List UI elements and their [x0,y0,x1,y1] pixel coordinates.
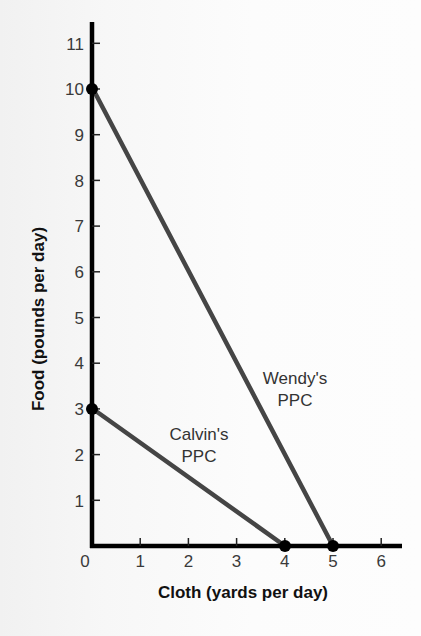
calvin-cloth-intercept-marker [279,540,291,552]
x-tick-label: 1 [135,552,144,571]
y-tick-labels: 1 2 3 4 5 6 7 8 9 10 11 [65,35,84,511]
y-tick-label: 2 [75,446,84,465]
calvin-ppc-label-line2: PPC [182,447,217,466]
y-tick-label: 1 [75,492,84,511]
calvin-food-intercept-marker [86,403,98,415]
y-tick-label: 7 [75,217,84,236]
x-tick-label: 3 [232,552,241,571]
x-tick-label: 2 [184,552,193,571]
x-axis-title: Cloth (yards per day) [158,583,328,602]
x-tick-label: 6 [376,552,385,571]
y-tick-label: 6 [75,263,84,282]
wendy-ppc-label: Wendy's PPC [263,369,327,410]
x-tick-labels: 0 1 2 3 4 5 6 [80,552,386,571]
y-tick-label: 10 [65,80,84,99]
x-tick-label: 0 [80,552,89,571]
wendy-ppc-label-line2: PPC [278,391,313,410]
calvin-ppc-label-line1: Calvin's [170,425,229,444]
y-axis-title: Food (pounds per day) [29,227,48,411]
wendy-food-intercept-marker [86,83,98,95]
y-tick-label: 4 [75,354,84,373]
y-tick-label: 3 [75,400,84,419]
y-tick-label: 5 [75,309,84,328]
y-tick-label: 9 [75,126,84,145]
calvin-ppc-label: Calvin's PPC [170,425,229,466]
wendy-cloth-intercept-marker [327,540,339,552]
y-tick-label: 8 [75,172,84,191]
ppc-chart: 1 2 3 4 5 6 7 8 9 10 11 0 1 2 3 4 5 6 We… [0,0,421,636]
y-tick-label: 11 [66,35,84,54]
wendy-ppc-line [93,89,333,546]
x-tick-label: 5 [328,552,337,571]
x-tick-label: 4 [280,552,289,571]
wendy-ppc-label-line1: Wendy's [263,369,327,388]
